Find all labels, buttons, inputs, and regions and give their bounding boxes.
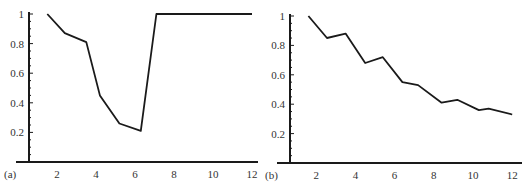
x-tick-label: 10 bbox=[468, 169, 480, 181]
y-tick-label: 0.2 bbox=[10, 126, 24, 138]
y-tick-label: 0.8 bbox=[10, 38, 24, 50]
y-tick-label: 0.2 bbox=[271, 128, 285, 140]
y-tick-label: 0.4 bbox=[10, 97, 24, 109]
panel-label: (a) bbox=[4, 168, 17, 181]
x-tick-label: 8 bbox=[171, 168, 177, 180]
chart-panel-a: 0.20.40.60.8124681012(a) bbox=[0, 0, 264, 189]
x-tick-label: 2 bbox=[313, 169, 319, 181]
y-tick-label: 0.6 bbox=[271, 69, 285, 81]
data-series-line bbox=[308, 16, 512, 115]
x-tick-label: 6 bbox=[132, 168, 138, 180]
y-tick-label: 0.4 bbox=[271, 98, 285, 110]
chart-panel-b: 0.20.40.60.8124681012(b) bbox=[264, 0, 528, 189]
y-tick-label: 1 bbox=[280, 10, 286, 22]
x-tick-label: 12 bbox=[507, 169, 518, 181]
panel-label: (b) bbox=[265, 169, 278, 182]
x-tick-label: 4 bbox=[353, 169, 359, 181]
y-tick-label: 0.6 bbox=[10, 67, 24, 79]
data-series-line bbox=[47, 14, 252, 131]
chart-a-svg: 0.20.40.60.8124681012(a) bbox=[0, 0, 264, 189]
chart-b-svg: 0.20.40.60.8124681012(b) bbox=[264, 0, 528, 189]
x-tick-label: 12 bbox=[247, 168, 258, 180]
x-tick-label: 4 bbox=[93, 168, 99, 180]
y-tick-label: 0.8 bbox=[271, 39, 285, 51]
x-tick-label: 2 bbox=[54, 168, 60, 180]
y-tick-label: 1 bbox=[19, 8, 25, 20]
x-tick-label: 6 bbox=[392, 169, 398, 181]
x-tick-label: 10 bbox=[208, 168, 220, 180]
x-tick-label: 8 bbox=[431, 169, 437, 181]
